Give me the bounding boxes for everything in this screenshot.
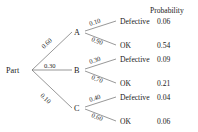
joint-prob-c-ok: 0.06 — [157, 117, 170, 126]
stage2-prob-a-defective: 0.10 — [88, 17, 102, 27]
stage2-prob-c-ok: 0.60 — [91, 111, 105, 122]
joint-prob-b-ok: 0.21 — [157, 79, 170, 88]
branch-line-part-to-c — [32, 70, 72, 108]
tree-svg-canvas: Part A B C 0.60 0.30 0.10 0.10 0.90 0.30… — [0, 0, 198, 132]
node-label-a: A — [74, 28, 80, 37]
stage2-prob-c-defective: 0.40 — [88, 93, 102, 103]
probability-tree-diagram: Part A B C 0.60 0.30 0.10 0.10 0.90 0.30… — [0, 0, 198, 132]
stage1-prob-c: 0.10 — [39, 92, 53, 106]
joint-prob-a-defective: 0.06 — [157, 17, 170, 26]
outcome-label-c-ok: OK — [120, 117, 131, 126]
stage2-prob-b-defective: 0.30 — [88, 55, 102, 65]
stage1-prob-b: 0.30 — [44, 62, 56, 69]
outcome-label-a-defective: Defective — [120, 17, 150, 26]
stage2-prob-a-ok: 0.90 — [91, 35, 105, 46]
root-node-label: Part — [6, 66, 20, 75]
joint-prob-c-defective: 0.04 — [157, 93, 170, 102]
node-label-c: C — [74, 104, 80, 113]
outcome-label-c-defective: Defective — [120, 93, 150, 102]
outcome-label-b-defective: Defective — [120, 55, 150, 64]
node-label-b: B — [74, 66, 80, 75]
outcome-label-b-ok: OK — [120, 79, 131, 88]
outcome-label-a-ok: OK — [120, 41, 131, 50]
stage1-prob-a: 0.60 — [40, 36, 54, 50]
joint-prob-a-ok: 0.54 — [157, 41, 170, 50]
probability-column-header: Probability — [150, 6, 184, 15]
stage2-prob-b-ok: 0.70 — [91, 73, 105, 84]
joint-prob-b-defective: 0.09 — [157, 55, 170, 64]
